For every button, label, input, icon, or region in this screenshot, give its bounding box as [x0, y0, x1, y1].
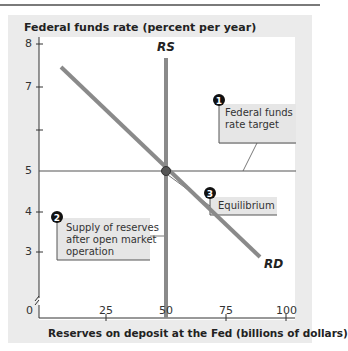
x-tick-75: 75	[219, 304, 233, 317]
y-tick-3: 3	[25, 245, 32, 258]
y-tick-5: 5	[25, 164, 32, 177]
x-axis-title: Reserves on deposit at the Fed (billions…	[48, 327, 348, 339]
annotation-3-text: Equilibrium	[218, 200, 275, 212]
x-tick-100: 100	[276, 304, 297, 317]
y-tick-8: 8	[25, 37, 32, 50]
y-tick-4: 4	[25, 205, 32, 218]
equilibrium-point	[162, 167, 171, 176]
y-tick-7: 7	[25, 80, 32, 93]
annotation-1-text: Federal funds rate target	[225, 107, 293, 131]
svg-text:2: 2	[54, 213, 60, 223]
rs-label: RS	[157, 40, 175, 54]
x-tick-50: 50	[159, 304, 173, 317]
svg-text:1: 1	[216, 96, 222, 106]
annotation-2-text: Supply of reserves after open market ope…	[66, 222, 159, 258]
svg-text:3: 3	[207, 189, 213, 199]
x-tick-0: 0	[26, 304, 33, 317]
rd-label: RD	[264, 257, 283, 271]
x-tick-25: 25	[99, 304, 113, 317]
